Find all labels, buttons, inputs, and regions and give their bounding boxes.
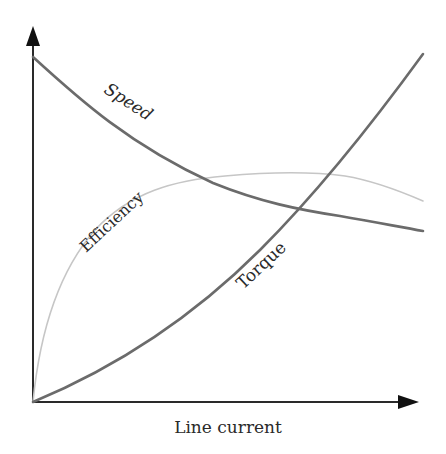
x-axis-arrow-icon <box>398 395 419 409</box>
axes <box>26 26 419 409</box>
torque-label: Torque <box>232 237 290 293</box>
speed-label: Speed <box>101 79 157 125</box>
motor-characteristics-chart: Speed Efficiency Torque Line current <box>0 0 446 454</box>
y-axis-arrow-icon <box>26 26 40 46</box>
efficiency-curve <box>33 173 423 402</box>
speed-curve <box>33 57 423 231</box>
efficiency-label: Efficiency <box>76 187 147 255</box>
x-axis-title: Line current <box>174 417 282 437</box>
